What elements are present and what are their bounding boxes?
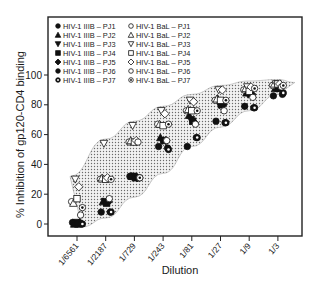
chart-canvas: HIV-1 IIIB – PJ1HIV-1 IIIB – PJ2HIV-1 II…	[0, 0, 317, 286]
svg-text:HIV-1 BaL – PJ3: HIV-1 BaL – PJ3	[136, 40, 190, 49]
svg-text:HIV-1 IIIB – PJ1: HIV-1 IIIB – PJ1	[63, 22, 116, 31]
svg-text:HIV-1 IIIB – PJ5: HIV-1 IIIB – PJ5	[63, 58, 116, 67]
svg-text:80: 80	[31, 99, 43, 110]
svg-text:1/6561: 1/6561	[56, 241, 81, 268]
svg-text:HIV-1 IIIB – PJ7: HIV-1 IIIB – PJ7	[63, 76, 116, 85]
legend: HIV-1 IIIB – PJ1HIV-1 IIIB – PJ2HIV-1 II…	[55, 22, 190, 85]
svg-text:20: 20	[31, 189, 43, 200]
svg-text:HIV-1 BaL – PJ2: HIV-1 BaL – PJ2	[136, 31, 190, 40]
svg-text:HIV-1 BaL – PJ4: HIV-1 BaL – PJ4	[136, 49, 190, 58]
svg-text:HIV-1 IIIB – PJ2: HIV-1 IIIB – PJ2	[63, 31, 116, 40]
svg-text:HIV-1 BaL – PJ7: HIV-1 BaL – PJ7	[136, 76, 190, 85]
svg-text:HIV-1 IIIB – PJ3: HIV-1 IIIB – PJ3	[63, 40, 116, 49]
svg-text:1/9: 1/9	[237, 241, 252, 257]
svg-text:1/81: 1/81	[177, 241, 195, 260]
svg-text:100: 100	[25, 70, 42, 81]
svg-text:HIV-1 BaL – PJ6: HIV-1 BaL – PJ6	[136, 67, 190, 76]
svg-text:Dilution: Dilution	[162, 264, 199, 276]
svg-text:HIV-1 IIIB – PJ6: HIV-1 IIIB – PJ6	[63, 67, 116, 76]
svg-text:1/27: 1/27	[206, 241, 224, 260]
svg-text:1/3: 1/3	[266, 241, 281, 257]
svg-text:1/729: 1/729	[117, 241, 139, 264]
svg-text:HIV-1 BaL – PJ5: HIV-1 BaL – PJ5	[136, 58, 190, 67]
svg-text:HIV-1 IIIB – PJ4: HIV-1 IIIB – PJ4	[63, 49, 116, 58]
svg-text:1/2187: 1/2187	[85, 241, 110, 268]
svg-text:% Inhibition of gp120-CD4 bind: % Inhibition of gp120-CD4 binding	[14, 51, 26, 218]
svg-text:40: 40	[31, 159, 43, 170]
svg-text:0: 0	[36, 219, 42, 230]
svg-text:60: 60	[31, 129, 43, 140]
svg-text:1/243: 1/243	[145, 241, 167, 264]
svg-text:HIV-1 BaL – PJ1: HIV-1 BaL – PJ1	[136, 22, 190, 31]
